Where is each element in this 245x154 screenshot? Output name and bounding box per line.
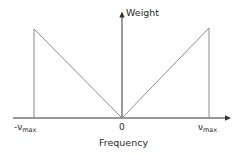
y-axis-label: Weight — [126, 8, 159, 18]
y-axis-arrowhead-icon — [119, 12, 124, 18]
x-axis-arrowhead-icon — [225, 115, 231, 120]
x-tick-neg-vmax: -νmax — [14, 123, 36, 132]
x-tick-zero-base: 0 — [119, 122, 125, 132]
x-tick-pos-sub: max — [203, 126, 217, 134]
x-axis-label: Frequency — [99, 138, 148, 148]
x-tick-neg-sub: max — [22, 126, 36, 134]
x-tick-zero: 0 — [119, 123, 125, 132]
right-ramp-line — [122, 28, 209, 118]
left-ramp-line — [34, 29, 122, 118]
x-tick-pos-vmax: νmax — [198, 123, 217, 132]
